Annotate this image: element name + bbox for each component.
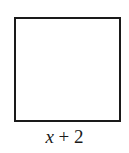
- constant-value: 2: [74, 126, 84, 147]
- plus-operator: +: [54, 126, 74, 147]
- square-shape: [14, 17, 121, 122]
- variable-x: x: [45, 126, 53, 147]
- side-length-label: x + 2: [0, 127, 129, 147]
